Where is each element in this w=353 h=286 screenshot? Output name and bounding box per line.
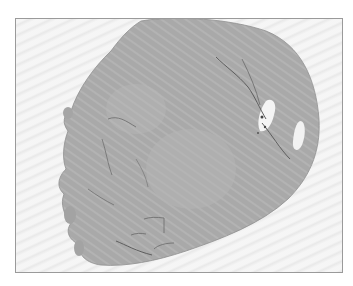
figure-frame [15, 18, 343, 273]
tissue-section-image [16, 19, 342, 272]
figure-caption [14, 281, 344, 286]
